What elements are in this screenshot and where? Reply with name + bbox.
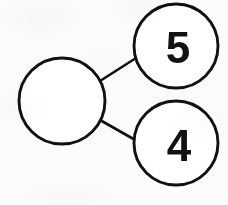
whole-circle-group[interactable] [19, 58, 105, 144]
part-circle-group-bottom[interactable]: 4 [134, 101, 218, 185]
number-bond-svg: 5 4 [0, 0, 228, 205]
part-circle-group-top[interactable]: 5 [134, 4, 218, 88]
part-value-text-bottom: 4 [167, 121, 192, 170]
connector-line-to-top-part [100, 58, 136, 81]
whole-circle[interactable] [19, 58, 105, 144]
connector-line-to-bottom-part [100, 120, 137, 141]
part-value-text-top: 5 [166, 23, 190, 72]
number-bond-diagram: 5 4 [0, 0, 228, 205]
